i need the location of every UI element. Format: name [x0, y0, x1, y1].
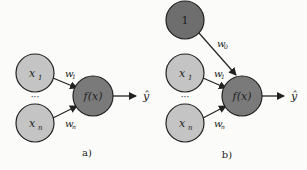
svg-text:1: 1	[38, 74, 42, 82]
bias-node: 1	[166, 1, 204, 39]
svg-text:0: 0	[224, 43, 228, 50]
input-node-xn: x n	[166, 104, 204, 142]
neuron-node: f(x)	[73, 76, 113, 116]
ellipsis: ···	[181, 92, 190, 102]
svg-text:1: 1	[188, 74, 192, 82]
ellipsis: ···	[31, 92, 40, 102]
weight-label-wn: w n	[65, 118, 76, 130]
svg-text:x: x	[179, 67, 186, 80]
output-label: ŷ	[290, 90, 298, 103]
svg-text:f(x): f(x)	[232, 90, 252, 103]
svg-text:x: x	[29, 117, 36, 130]
caption-b: b)	[222, 149, 232, 160]
svg-text:f(x): f(x)	[83, 90, 103, 103]
svg-text:n: n	[72, 123, 76, 130]
edge-xn-to-neuron	[53, 106, 77, 118]
svg-text:1: 1	[182, 14, 189, 27]
panel-a: x 1 ··· x n w 1 w n f(x) ŷ a)	[16, 54, 150, 158]
svg-text:1: 1	[72, 73, 76, 80]
output-label: ŷ	[142, 90, 150, 103]
caption-a: a)	[82, 147, 92, 158]
svg-text:x: x	[29, 67, 36, 80]
input-node-x1: x 1	[16, 54, 54, 92]
panel-b: 1 w 0 x 1 ··· x n w 1 w n	[166, 1, 298, 160]
svg-text:n: n	[221, 123, 225, 130]
weight-label-wn: w n	[214, 118, 225, 130]
svg-text:x: x	[179, 117, 186, 130]
svg-text:n: n	[188, 124, 193, 132]
weight-label-w1: w 1	[65, 68, 76, 80]
weight-label-w0: w 0	[217, 38, 228, 50]
input-node-x1: x 1	[166, 54, 204, 92]
svg-text:1: 1	[221, 73, 225, 80]
weight-label-w1: w 1	[214, 68, 225, 80]
input-node-xn: x n	[16, 104, 54, 142]
neuron-node: f(x)	[222, 76, 262, 116]
svg-text:n: n	[38, 124, 43, 132]
perceptron-diagram: x 1 ··· x n w 1 w n f(x) ŷ a)	[0, 0, 307, 170]
edge-xn-to-neuron	[203, 106, 226, 118]
